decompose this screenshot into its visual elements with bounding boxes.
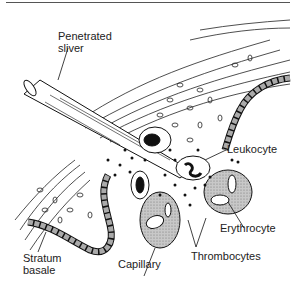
label-thrombocytes: Thrombocytes [191, 250, 261, 262]
label-erythrocyte: Erythrocyte [220, 222, 276, 234]
sliver [22, 78, 190, 178]
label-capillary: Capillary [118, 258, 161, 270]
label-stratum-basale: Stratum basale [23, 252, 62, 276]
label-leukocyte: Leukocyte [227, 143, 277, 155]
label-penetrated-sliver: Penetrated sliver [58, 30, 112, 54]
label-sliver-line2: sliver [58, 42, 112, 54]
capillary [140, 192, 180, 248]
skin-sliver-diagram: Penetrated sliver Leukocyte Erythrocyte … [0, 0, 296, 294]
label-stratum-line2: basale [23, 264, 62, 276]
label-sliver-line1: Penetrated [58, 30, 112, 42]
label-stratum-line1: Stratum [23, 252, 62, 264]
